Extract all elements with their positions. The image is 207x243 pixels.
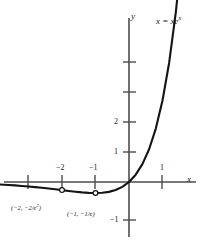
curve-equation-label: x = xex [156,17,181,26]
y-tick-label-2: 2 [114,118,118,126]
y-tick-label--1: −1 [110,216,119,224]
y-axis-label: y [131,12,135,21]
x-tick-label-1: 1 [160,164,164,172]
y-tick-label-1: 1 [114,148,118,156]
curve-equation-text: x = xe [156,16,179,26]
point-label-minus1-text: (−1, −1/e [67,210,92,217]
x-tick-label--1: −1 [89,164,98,172]
x-tick-label--2: −2 [56,164,65,172]
point-label-minus1: (−1, −1/e) [67,211,95,218]
point-label-minus2: (−2, −2/e2) [11,205,41,212]
annotated-point-marker-0 [60,188,65,193]
curve-equation-exponent: x [179,14,182,21]
annotated-point-marker-1 [93,191,98,196]
point-label-minus2-suffix: ) [39,204,41,211]
chart-figure: x y −2 −1 1 2 1 −1 x = xex (−2, −2/e2) (… [0,0,207,243]
point-label-minus2-text: (−2, −2/e [11,204,36,211]
x-axis-label: x [187,175,191,184]
point-label-minus1-suffix: ) [92,210,94,217]
